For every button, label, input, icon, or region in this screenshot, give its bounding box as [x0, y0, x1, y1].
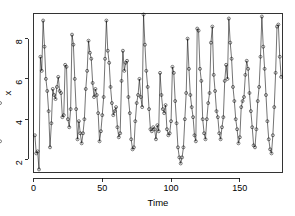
y-tick-label: 4	[15, 120, 25, 125]
x-tick-label: 50	[97, 183, 107, 193]
y-tick-label: 6	[15, 80, 25, 85]
y-tick-label: 8	[15, 39, 25, 44]
x-tick-label: 100	[164, 183, 179, 193]
x-axis-title: Time	[148, 197, 169, 208]
chart-figure: 050100150 2468 Time x	[0, 0, 295, 216]
x-tick-label: 150	[232, 183, 247, 193]
timeseries-plot: 050100150 2468 Time x	[0, 0, 295, 216]
x-tick-label: 0	[31, 183, 36, 193]
y-axis-title: x	[2, 90, 13, 95]
y-tick-label: 2	[15, 160, 25, 165]
